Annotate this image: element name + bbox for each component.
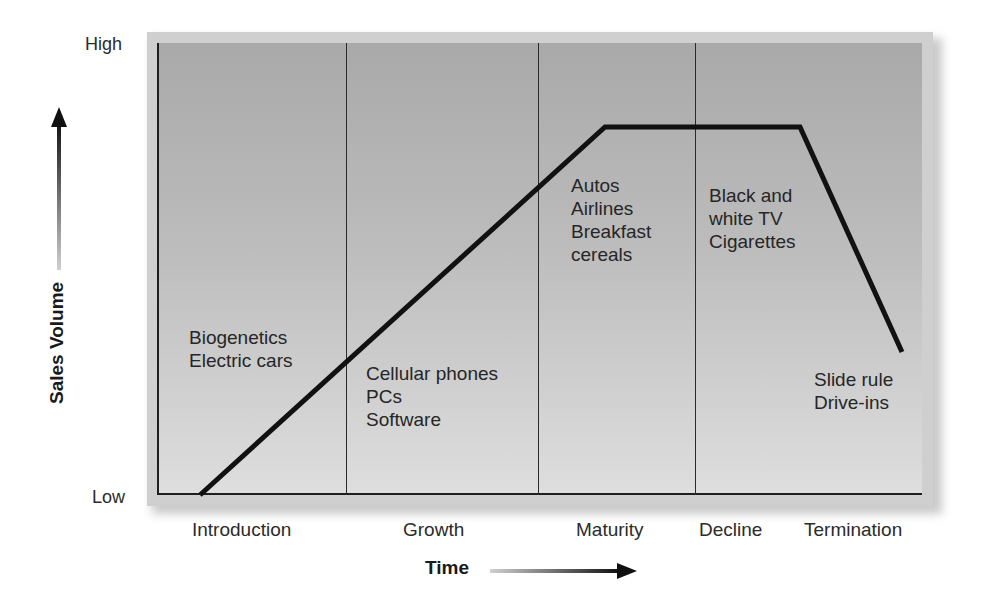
sales-curve-line [200,127,902,495]
y-axis-arrow-icon [51,107,67,270]
x-axis-arrow-icon [490,563,637,579]
stage-label-introduction: Introduction [192,519,291,541]
chart-svg [0,0,985,605]
y-axis-label: Sales Volume [46,282,68,404]
stage-label-growth: Growth [403,519,464,541]
examples-introduction: Biogenetics Electric cars [189,326,292,372]
stage-label-maturity: Maturity [576,519,644,541]
y-tick-low: Low [92,487,125,508]
examples-growth: Cellular phones PCs Software [366,362,498,431]
examples-termination: Slide rule Drive-ins [814,368,893,414]
examples-maturity: Autos Airlines Breakfast cereals [571,174,651,266]
stage-label-termination: Termination [804,519,902,541]
x-axis-label: Time [425,557,469,579]
examples-decline: Black and white TV Cigarettes [709,184,796,253]
y-tick-high: High [85,34,122,55]
stage-label-decline: Decline [699,519,762,541]
